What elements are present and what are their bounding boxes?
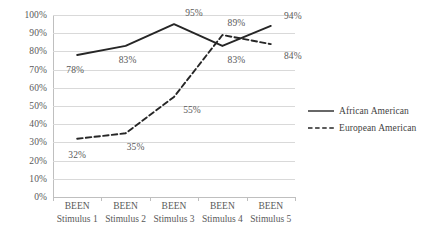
legend-dashed-line-icon xyxy=(308,123,334,133)
y-tick-label-80: 80% xyxy=(29,46,47,56)
data-label-african-american-2: 83% xyxy=(119,55,137,65)
data-label-european-american-5: 84% xyxy=(284,51,302,61)
y-tick-label-60: 60% xyxy=(29,83,47,93)
y-tick-label-50: 50% xyxy=(29,101,47,111)
legend-item-european-american[interactable]: European American xyxy=(308,120,434,135)
legend-label-european-american: European American xyxy=(339,123,416,133)
x-category-label-2: BEENStimulus 2 xyxy=(105,200,146,226)
y-tick-label-100: 100% xyxy=(24,10,47,20)
x-tick-mark-2 xyxy=(150,197,151,201)
y-tick-label-20: 20% xyxy=(29,156,47,166)
x-category-label-3: BEENStimulus 3 xyxy=(154,200,195,226)
data-label-african-american-5: 94% xyxy=(284,11,302,21)
x-tick-mark-3 xyxy=(198,197,199,201)
x-category-label-1: BEENStimulus 1 xyxy=(57,200,98,226)
legend-label-african-american: African American xyxy=(339,106,409,116)
x-category-label-5: BEENStimulus 5 xyxy=(250,200,291,226)
x-tick-mark-0 xyxy=(53,197,54,201)
data-label-african-american-4: 83% xyxy=(228,55,246,65)
line-chart: 0%10%20%30%40%50%60%70%80%90%100% 78%83%… xyxy=(0,0,436,241)
series-layer xyxy=(53,15,295,197)
x-tick-mark-4 xyxy=(247,197,248,201)
series-line-european-american xyxy=(77,35,271,139)
x-tick-mark-5 xyxy=(295,197,296,201)
data-label-european-american-4: 89% xyxy=(228,18,246,28)
x-tick-mark-1 xyxy=(101,197,102,201)
data-label-european-american-3: 55% xyxy=(183,105,201,115)
plot-area: 0%10%20%30%40%50%60%70%80%90%100% 78%83%… xyxy=(53,15,295,197)
data-label-african-american-3: 95% xyxy=(185,8,203,18)
y-tick-label-40: 40% xyxy=(29,119,47,129)
y-tick-label-30: 30% xyxy=(29,137,47,147)
gridline-0 xyxy=(53,197,295,198)
y-tick-label-10: 10% xyxy=(29,174,47,184)
legend-item-african-american[interactable]: African American xyxy=(308,103,434,118)
series-line-african-american xyxy=(77,24,271,55)
x-category-label-4: BEENStimulus 4 xyxy=(202,200,243,226)
data-label-african-american-1: 78% xyxy=(66,65,84,75)
y-tick-label-90: 90% xyxy=(29,28,47,38)
data-label-european-american-2: 35% xyxy=(127,142,145,152)
data-label-european-american-1: 32% xyxy=(68,150,86,160)
y-tick-label-70: 70% xyxy=(29,65,47,75)
chart-legend: African American European American xyxy=(308,103,434,137)
legend-solid-line-icon xyxy=(308,106,334,116)
y-tick-label-0: 0% xyxy=(34,192,47,202)
